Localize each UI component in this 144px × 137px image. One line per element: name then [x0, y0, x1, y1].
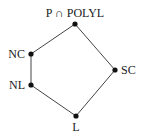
label-top: P ∩ POLYL [46, 6, 104, 20]
edge-l-sc [76, 70, 115, 116]
edge-nl-l [31, 85, 76, 116]
node-nc [28, 51, 33, 56]
edge-top-nc [31, 24, 75, 54]
node-nl [28, 82, 33, 87]
edges [31, 24, 115, 116]
edge-sc-top [75, 24, 115, 70]
label-sc: SC [121, 63, 136, 77]
label-l: L [72, 120, 79, 134]
node-sc [112, 67, 117, 72]
label-nc: NC [8, 47, 25, 61]
label-nl: NL [9, 78, 25, 92]
node-top [72, 21, 77, 26]
nodes [28, 21, 117, 118]
hasse-diagram: P ∩ POLYLNCNLSCL [0, 0, 144, 137]
node-l [73, 113, 78, 118]
